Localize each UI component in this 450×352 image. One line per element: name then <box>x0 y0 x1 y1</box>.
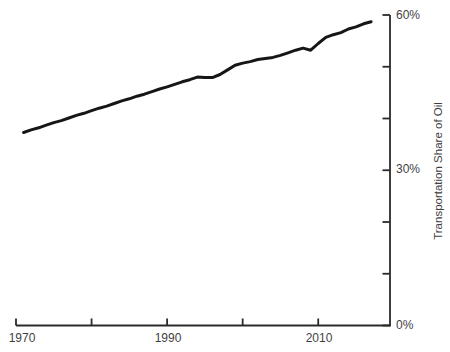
y-tick-label-30: 30% <box>396 162 420 176</box>
x-tick-label-2010: 2010 <box>302 331 336 345</box>
transportation-oil-share-chart: 60% 30% 0% 1970 1990 2010 Transportation… <box>0 0 450 352</box>
y-tick-label-0: 0% <box>396 318 413 332</box>
y-tick-label-60: 60% <box>396 8 420 22</box>
x-tick-label-1990: 1990 <box>151 331 185 345</box>
y-axis-title: Transportation Share of Oil <box>432 102 444 240</box>
data-line-transportation-share <box>24 22 372 133</box>
chart-canvas <box>0 0 450 352</box>
x-tick-label-1970: 1970 <box>5 331 39 345</box>
